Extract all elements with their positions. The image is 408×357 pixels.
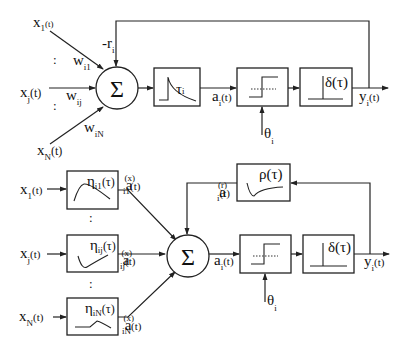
output-label: yi(t) <box>364 253 385 273</box>
refractory-label: ρ(τ) <box>259 166 283 183</box>
bottom-input-j: xj(t) ηij(τ) a(x)ij(t) <box>20 235 165 272</box>
activation-label: ai(t) <box>214 252 234 272</box>
spike-label: δ(τ) <box>328 239 351 256</box>
sigma-symbol: Σ <box>181 244 195 270</box>
sigma-symbol: Σ <box>110 76 124 102</box>
threshold-box <box>240 235 291 273</box>
top-input-N: xN(t) wiN <box>37 107 104 162</box>
bottom-model: x1(t) ηi1(τ) a(x)i1(t) : xj(t) ηij(τ) a(… <box>19 164 389 336</box>
svg-text:ηij(τ): ηij(τ) <box>90 237 116 255</box>
svg-text:xj(t): xj(t) <box>20 245 41 265</box>
top-model: x1(t) wi1 : xj(t) wij : xN(t) wiN Σ -ri … <box>20 14 388 162</box>
weight-label: wiN <box>84 119 104 139</box>
activation-label: ai(t) <box>212 88 232 108</box>
bottom-input-1: x1(t) ηi1(τ) a(x)i1(t) <box>20 171 176 240</box>
bottom-input-N: xN(t) ηiN(τ) a(x)iN(t) <box>19 272 175 336</box>
weight-label: wi1 <box>73 52 91 72</box>
svg-text:xj(t): xj(t) <box>20 84 41 104</box>
weight-label: wij <box>66 87 82 107</box>
top-input-j: xj(t) wij <box>20 84 95 107</box>
svg-text:xN(t): xN(t) <box>37 142 62 162</box>
threshold-label: θi <box>267 292 277 313</box>
ellipsis: : <box>89 210 93 225</box>
svg-text:xN(t): xN(t) <box>19 308 44 328</box>
kernel-output-label: a(x)i1(t) <box>123 173 141 196</box>
spike-label: δ(τ) <box>325 74 348 91</box>
ellipsis: : <box>53 98 57 113</box>
ellipsis: : <box>89 276 93 291</box>
top-input-1: x1(t) wi1 <box>33 14 103 72</box>
reset-label: -ri <box>102 35 115 55</box>
output-label: yi(t) <box>359 88 380 108</box>
ellipsis: : <box>53 52 57 67</box>
neuron-model-diagram: x1(t) wi1 : xj(t) wij : xN(t) wiN Σ -ri … <box>0 0 408 357</box>
svg-text:x1(t): x1(t) <box>33 14 54 33</box>
kernel-output-label: a(x)ij(t) <box>120 248 136 271</box>
svg-text:x1(t): x1(t) <box>20 181 43 201</box>
threshold-label: θi <box>264 125 274 146</box>
